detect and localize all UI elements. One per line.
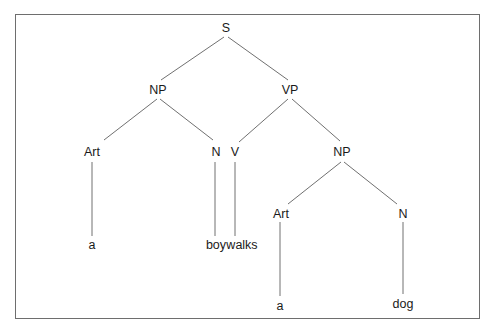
node-np2: NP — [333, 146, 350, 159]
edge-s-np1 — [161, 37, 224, 80]
edge-vp-v — [239, 99, 288, 142]
node-v: V — [231, 146, 239, 159]
edge-vp-np2 — [292, 99, 340, 141]
node-dog: dog — [393, 298, 414, 311]
node-walks: walks — [226, 239, 257, 252]
node-n2: N — [398, 208, 407, 221]
edge-np1-art1 — [104, 99, 157, 140]
node-a1: a — [89, 239, 96, 252]
node-art2: Art — [273, 208, 289, 221]
node-s: S — [222, 22, 230, 35]
parse-tree-edges — [0, 0, 495, 333]
node-boy: boy — [206, 239, 226, 252]
node-vp: VP — [282, 84, 299, 97]
node-np1: NP — [149, 84, 166, 97]
edge-np1-n1 — [160, 99, 213, 140]
node-art1: Art — [84, 146, 100, 159]
node-n1: N — [211, 146, 220, 159]
edge-np2-art2 — [288, 162, 341, 204]
edge-s-vp — [228, 37, 288, 80]
edge-np2-n2 — [344, 162, 397, 204]
node-a2: a — [277, 300, 284, 313]
